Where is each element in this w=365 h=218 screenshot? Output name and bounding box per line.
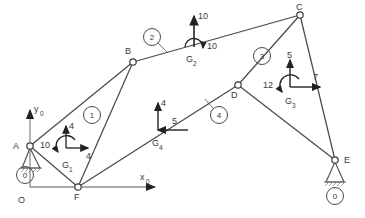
joint-D[interactable] bbox=[235, 82, 241, 88]
force-value-G4-up: 4 bbox=[161, 98, 166, 108]
com-label-G3-sub: 3 bbox=[292, 102, 296, 109]
load-group-G1: 4 4 10 G 1 bbox=[40, 121, 91, 173]
force-value-G1-right: 4 bbox=[86, 151, 91, 161]
joint-label-C: C bbox=[296, 2, 303, 12]
y-axis-label-sub: 0 bbox=[40, 110, 44, 117]
load-group-G4: 4 5 G 4 bbox=[152, 98, 188, 151]
link-number-1: 1 bbox=[90, 111, 95, 120]
com-label-G1: G bbox=[62, 160, 69, 170]
member-D-F bbox=[78, 85, 238, 187]
load-group-G3: 5 7 12 G 3 bbox=[263, 50, 320, 109]
joint-label-D: D bbox=[231, 90, 238, 100]
joint-E[interactable] bbox=[332, 157, 338, 163]
support-E bbox=[324, 162, 346, 186]
com-label-G1-sub: 1 bbox=[69, 166, 73, 173]
leader-line-2 bbox=[158, 43, 168, 53]
com-label-G4-sub: 4 bbox=[159, 144, 163, 151]
joint-label-A: A bbox=[13, 141, 19, 151]
ground-hatch-E bbox=[325, 182, 345, 186]
force-value-G2-up: 10 bbox=[198, 11, 208, 21]
diagram-canvas: y 0 x 0 O bbox=[0, 0, 365, 218]
moment-value-G3: 12 bbox=[263, 80, 273, 90]
moment-value-G1: 10 bbox=[40, 140, 50, 150]
com-label-G2: G bbox=[186, 54, 193, 64]
joint-B[interactable] bbox=[130, 59, 136, 65]
com-label-G2-sub: 2 bbox=[193, 60, 197, 67]
member-B-C bbox=[133, 15, 300, 62]
leader-line-4 bbox=[205, 99, 213, 108]
joint-F[interactable] bbox=[75, 184, 81, 190]
joint-A[interactable] bbox=[27, 143, 33, 149]
link-number-ground-E: 0 bbox=[333, 192, 338, 201]
linkage-diagram: y 0 x 0 O bbox=[0, 0, 365, 218]
force-value-G3-right: 7 bbox=[313, 72, 318, 82]
joint-label-B: B bbox=[125, 46, 131, 56]
link-number-3: 3 bbox=[260, 52, 265, 61]
x-axis-label: x bbox=[140, 172, 145, 182]
link-number-ground-A: 0 bbox=[23, 171, 28, 180]
force-value-G4-left: 5 bbox=[172, 116, 177, 126]
pin-support-triangle-E bbox=[326, 162, 344, 182]
load-group-G2: 10 10 G 2 bbox=[185, 11, 217, 67]
link-number-4: 4 bbox=[217, 111, 222, 120]
member-B-F bbox=[78, 62, 133, 187]
joint-label-E: E bbox=[344, 155, 350, 165]
y-axis-label: y bbox=[34, 104, 39, 114]
member-A-B bbox=[30, 62, 133, 146]
com-label-G4: G bbox=[152, 138, 159, 148]
force-value-G3-up: 5 bbox=[287, 50, 292, 60]
joint-C[interactable] bbox=[297, 12, 303, 18]
x-axis-label-sub: 0 bbox=[146, 178, 150, 185]
com-label-G3: G bbox=[285, 96, 292, 106]
link-number-2: 2 bbox=[150, 33, 155, 42]
origin-label: O bbox=[18, 195, 25, 205]
pin-support-triangle-A bbox=[22, 148, 40, 168]
moment-value-G2: 10 bbox=[207, 41, 217, 51]
joint-label-F: F bbox=[74, 192, 80, 202]
force-value-G1-up: 4 bbox=[69, 121, 74, 131]
joint-labels: A B C D E F bbox=[13, 2, 350, 202]
